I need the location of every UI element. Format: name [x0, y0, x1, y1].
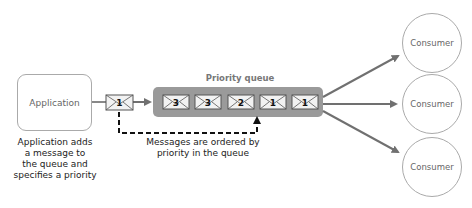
application-box: Application	[17, 74, 92, 131]
envelope-priority: 1	[302, 98, 308, 108]
envelope-icon: 1	[292, 95, 318, 109]
consumer-node: Consumer	[402, 74, 462, 134]
envelope-priority: 3	[205, 98, 211, 108]
consumer-label: Consumer	[410, 38, 453, 48]
envelope-icon: 2	[228, 95, 254, 109]
envelope-priority: 1	[270, 98, 276, 108]
envelope-icon: 3	[195, 95, 221, 109]
queue-title: Priority queue	[200, 73, 280, 83]
caption-line: specifies a priority	[0, 170, 110, 181]
caption-line: the queue and	[0, 159, 110, 170]
ordering-caption: Messages are ordered by priority in the …	[138, 137, 268, 159]
envelope-priority: 2	[238, 98, 244, 108]
caption-line: Messages are ordered by	[138, 137, 268, 148]
envelope-icon: 3	[163, 95, 189, 109]
caption-line: priority in the queue	[138, 148, 268, 159]
arrow-to-consumer-3	[323, 111, 398, 152]
envelope-priority: 3	[173, 98, 179, 108]
envelope-priority: 1	[116, 98, 122, 108]
envelope-icon: 1	[260, 95, 286, 109]
consumer-node: Consumer	[402, 137, 462, 197]
consumer-node: Consumer	[402, 13, 462, 73]
consumer-label: Consumer	[410, 162, 453, 172]
caption-line: a message to	[0, 148, 110, 159]
caption-line: Application adds	[0, 137, 110, 148]
application-caption: Application adds a message to the queue …	[0, 137, 110, 181]
envelope-icon: 1	[106, 95, 133, 110]
arrow-to-consumer-1	[323, 56, 398, 97]
application-label: Application	[29, 98, 79, 108]
consumer-label: Consumer	[410, 99, 453, 109]
